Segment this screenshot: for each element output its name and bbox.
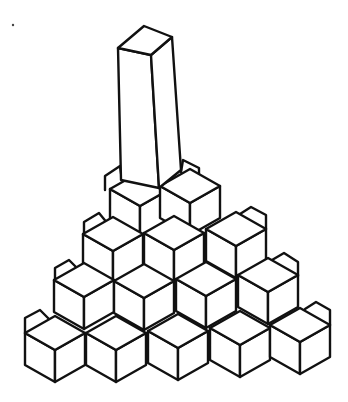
tall-column [118,26,181,188]
line-drawing [0,0,348,402]
cube-rows [25,169,330,382]
ink-speck [12,24,14,26]
cube [25,316,85,382]
cube-pyramid-illustration [0,0,348,402]
